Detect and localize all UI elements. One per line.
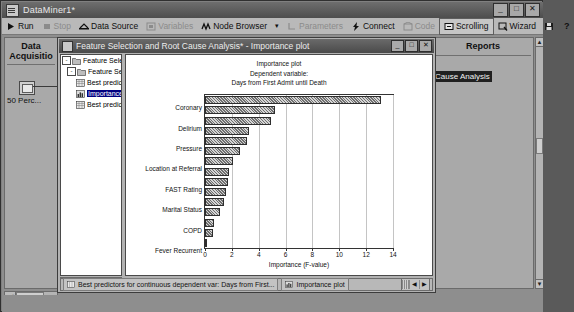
plot-titles: Importance plot Dependent variable: Days… [126,59,432,88]
status-tab-importance-plot[interactable]: Importance plot [281,278,348,291]
x-tick-label: 12 [363,251,370,258]
toolbar-save-button[interactable] [540,19,560,34]
bar [205,117,271,125]
results-tree[interactable]: - Feature Selection an - Feature Selecti… [60,54,122,276]
x-tick-label: 2 [230,251,234,258]
toolbar-wizard-button[interactable]: Wizard [494,19,540,34]
scroll-down-arrow-icon[interactable]: ▼ [536,279,543,288]
x-tick-label: 14 [389,251,396,258]
tree-item-label: Best predicto [87,79,121,86]
y-axis-tick-label: FAST Rating [165,186,202,194]
bar-row: COPD [205,219,393,227]
bar-row [205,147,393,155]
child-close-button[interactable]: ✕ [419,40,432,52]
plot-subtitle-2: Days from First Admit until Death [126,78,432,88]
importance-plot-canvas: Importance plot Dependent variable: Days… [125,54,433,276]
importance-plot-window: Feature Selection and Root Cause Analysi… [57,37,436,293]
child-maximize-button[interactable]: □ [405,40,418,52]
toolbar-node-browser-dropdown[interactable]: ▾ [271,19,283,34]
tree-item[interactable]: Best predicto [61,77,121,88]
x-tick-label: 4 [257,251,261,258]
close-button[interactable]: ✕ [525,3,540,17]
reports-panel: Reports Cause Analysis [432,37,534,289]
bar [205,188,226,196]
reports-title: Reports [433,38,533,51]
bar-row: Pressure [205,137,393,145]
toolbar-connect-label: Connect [363,21,395,31]
data-acquisition-title-line2: Acquisitio [5,51,57,61]
tree-item-label: Best predicto [87,101,121,108]
data-acquisition-node[interactable] [19,81,35,95]
tree-item[interactable]: Best predicto [61,99,121,110]
drag-grip-icon[interactable] [402,280,409,289]
minimize-button[interactable]: _ [493,3,508,17]
toolbar-data-source-label: Data Source [91,21,138,31]
stop-icon [42,22,52,31]
child-minimize-button[interactable]: _ [391,40,404,52]
bar [205,157,233,165]
bar [205,219,214,227]
bar-row [205,208,393,216]
x-tick-label: 0 [203,251,207,258]
y-axis-tick-label: Delirium [178,125,202,133]
toolbar-help-button[interactable]: ? [560,19,574,34]
y-axis-tick-label: Coronary [175,104,202,112]
toolbar-connect-button[interactable]: Connect [347,19,399,34]
code-icon [403,22,413,31]
x-tick-label: 6 [284,251,288,258]
expander-icon[interactable]: - [62,56,71,65]
play-icon [6,22,16,31]
workspace: Data Acquisitio 50 Perc... ◀ Reports Cau… [2,35,543,312]
bar-row: Location at Referral [205,157,393,165]
scroll-thumb[interactable] [536,138,543,154]
chart-icon [76,90,85,98]
nav-prev-button[interactable]: ◀ [409,280,419,289]
x-tick-label: 10 [336,251,343,258]
toolbar-stop-button[interactable]: Stop [38,19,76,34]
bar-row [205,106,393,114]
toolbar-data-source-button[interactable]: Data Source [75,19,142,34]
variables-icon [146,22,156,31]
toolbar-node-browser-button[interactable]: Node Browser [197,19,271,34]
app-grid-icon [6,4,19,17]
bar [205,168,229,176]
bar-row: Delirium [205,117,393,125]
node-connector-wire [33,86,59,87]
child-window-title: Feature Selection and Root Cause Analysi… [76,41,309,51]
scrolling-icon [444,22,454,31]
maximize-button[interactable]: □ [509,3,524,17]
x-tick-label: 8 [311,251,315,258]
bar [205,137,247,145]
chevron-down-icon: ▾ [275,22,279,30]
spreadsheet-icon [76,101,85,109]
tree-item[interactable]: - Feature Selection an [61,55,121,66]
toolbar-parameters-button[interactable]: Parameters [283,19,347,34]
toolbar-scrolling-button[interactable]: Scrolling [439,18,494,35]
expander-icon[interactable]: - [67,67,76,76]
bar-row [205,229,393,237]
bar-row: FAST Rating [205,178,393,186]
plot-subtitle: Dependent variable: [126,69,432,79]
chart-icon [285,281,293,288]
status-tab-best-predictors[interactable]: Best predictors for continuous dependent… [63,278,278,291]
tree-item-label: Feature Selection an [83,57,121,64]
reports-item-cause-analysis[interactable]: Cause Analysis [433,71,492,82]
toolbar-code-button[interactable]: Code [399,19,439,34]
wizard-icon [498,22,508,31]
toolbar-wizard-label: Wizard [510,21,536,31]
main-toolbar: Run Stop Data Source Variables Node Brow [2,18,543,35]
nav-next-button[interactable]: ▶ [419,280,429,289]
toolbar-run-button[interactable]: Run [2,19,38,34]
workspace-vertical-scrollbar[interactable]: ▲ ▼ [535,37,543,289]
scroll-up-arrow-icon[interactable]: ▲ [536,38,543,47]
tree-item-importance-plot[interactable]: Importance p [61,88,121,99]
status-bar-navigator[interactable]: ◀ ▶ [401,278,430,291]
toolbar-variables-label: Variables [158,21,193,31]
node-browser-icon [201,22,211,31]
bar-row: Fever Recurrent [205,239,393,247]
bar [205,178,228,186]
y-axis-tick-label: Location at Referral [145,165,202,173]
toolbar-variables-button[interactable]: Variables [142,19,197,34]
tree-item[interactable]: - Feature Selection [61,66,121,77]
